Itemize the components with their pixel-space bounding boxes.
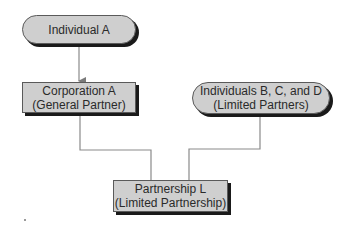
node-corporation-a: Corporation A (General Partner): [22, 82, 136, 113]
node-role: (General Partner): [32, 98, 125, 112]
node-individuals-bcd: Individuals B, C, and D (Limited Partner…: [192, 82, 330, 114]
edge-corporation-a-to-partnership-l: [80, 116, 151, 180]
node-individual-a: Individual A: [22, 15, 136, 44]
edge-individuals-bcd-to-partnership-l: [189, 117, 260, 180]
node-role: (Limited Partners): [213, 98, 308, 112]
node-label: Individual A: [48, 23, 109, 37]
scan-artifact: [24, 219, 26, 221]
diagram-canvas: Individual A Corporation A (General Part…: [0, 0, 344, 234]
node-partnership-l: Partnership L (Limited Partnership): [113, 180, 228, 212]
node-label: Individuals B, C, and D: [200, 84, 322, 98]
node-label: Partnership L: [135, 182, 206, 196]
node-label: Corporation A: [42, 84, 115, 98]
node-role: (Limited Partnership): [115, 196, 226, 210]
